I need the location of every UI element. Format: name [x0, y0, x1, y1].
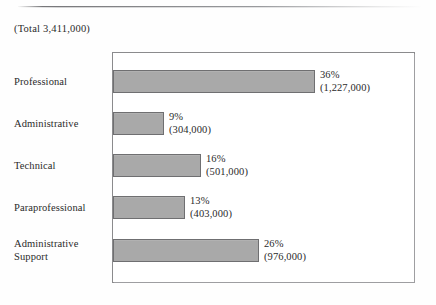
bar-value-group: 16% (501,000): [206, 153, 248, 178]
category-label-line2: Support: [14, 251, 48, 262]
bar-count-label: (976,000): [264, 251, 306, 264]
category-label-line1: Administrative: [14, 238, 78, 249]
category-label: Paraprofessional: [14, 201, 110, 214]
bar-percent-label: 26%: [264, 238, 306, 251]
category-label: Technical: [14, 159, 110, 172]
total-note: (Total 3,411,000): [14, 23, 90, 34]
bar-percent-label: 16%: [206, 153, 248, 166]
chart-row: Administrative 9% (304,000): [0, 112, 436, 154]
category-label: Professional: [14, 75, 110, 88]
bar[interactable]: [113, 112, 164, 135]
chart-row: Technical 16% (501,000): [0, 154, 436, 196]
scan-artifact-rule-shadow: [18, 7, 422, 8]
bar-count-label: (1,227,000): [320, 82, 370, 95]
bar-count-label: (403,000): [190, 208, 232, 221]
category-label: Administrative Support: [14, 237, 110, 263]
bar-percent-label: 9%: [169, 111, 211, 124]
category-label: Administrative: [14, 117, 110, 130]
chart-page: (Total 3,411,000) Professional 36% (1,22…: [0, 0, 436, 305]
bar[interactable]: [113, 154, 201, 177]
bar-count-label: (501,000): [206, 166, 248, 179]
chart-row: Administrative Support 26% (976,000): [0, 239, 436, 281]
bar-percent-label: 13%: [190, 195, 232, 208]
bar-value-group: 36% (1,227,000): [320, 69, 370, 94]
chart-row: Paraprofessional 13% (403,000): [0, 196, 436, 238]
bar[interactable]: [113, 70, 315, 93]
bar-percent-label: 36%: [320, 69, 370, 82]
bar-value-group: 13% (403,000): [190, 195, 232, 220]
bar[interactable]: [113, 196, 185, 219]
bar-count-label: (304,000): [169, 124, 211, 137]
bar-value-group: 26% (976,000): [264, 238, 306, 263]
bar[interactable]: [113, 239, 259, 262]
bar-value-group: 9% (304,000): [169, 111, 211, 136]
chart-row: Professional 36% (1,227,000): [0, 70, 436, 112]
